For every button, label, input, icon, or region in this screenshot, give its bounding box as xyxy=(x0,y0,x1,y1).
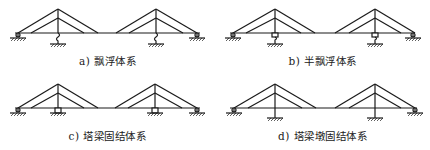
caption-d: d) 塔梁墩固结体系 xyxy=(215,128,430,143)
caption-b: b) 半飘浮体系 xyxy=(215,53,430,68)
panel-tower-girder-fixed-system: c) 塔梁固结体系 xyxy=(0,75,215,150)
panel-floating-system: a) 飘浮体系 xyxy=(0,0,215,75)
panel-tower-girder-pier-fixed-system: d) 塔梁墩固结体系 xyxy=(215,75,430,150)
caption-a: a) 飘浮体系 xyxy=(0,53,215,68)
panel-semi-floating-system: b) 半飘浮体系 xyxy=(215,0,430,75)
caption-c: c) 塔梁固结体系 xyxy=(0,128,215,143)
